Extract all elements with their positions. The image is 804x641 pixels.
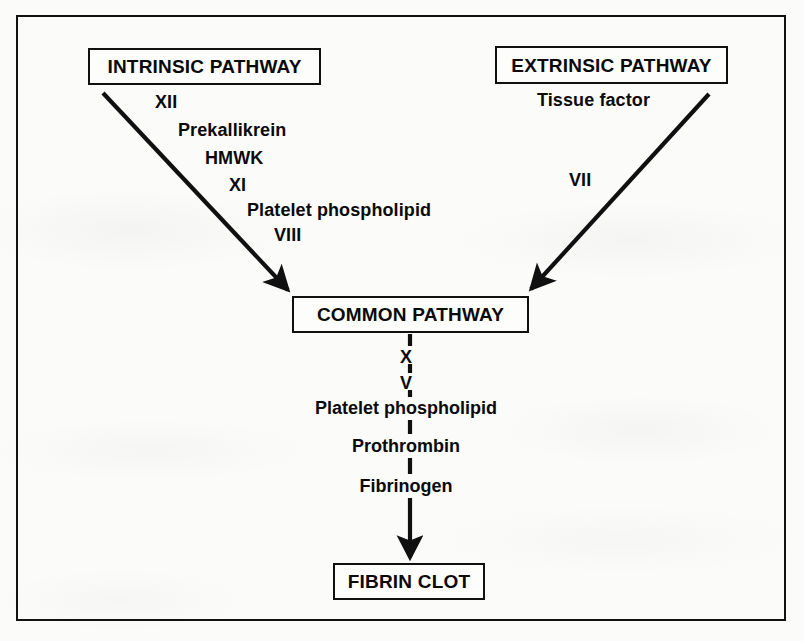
common-factor-fibrinogen-row: Fibrinogen — [0, 477, 804, 495]
node-extrinsic-pathway: EXTRINSIC PATHWAY — [495, 46, 728, 84]
node-common-pathway: COMMON PATHWAY — [292, 296, 529, 333]
intrinsic-factor-viii: VIII — [274, 226, 301, 244]
common-factor-x: X — [400, 348, 412, 366]
node-common-pathway-label: COMMON PATHWAY — [317, 305, 504, 324]
extrinsic-factor-vii: VII — [569, 171, 591, 189]
common-factor-platelet-phospholipid-row: Platelet phospholipid — [0, 399, 804, 417]
extrinsic-factor-tissue-factor: Tissue factor — [537, 91, 650, 109]
intrinsic-factor-xi: XI — [229, 176, 246, 194]
node-fibrin-clot-label: FIBRIN CLOT — [348, 572, 471, 591]
intrinsic-factor-hmwk: HMWK — [205, 149, 263, 167]
node-intrinsic-pathway-label: INTRINSIC PATHWAY — [107, 57, 301, 76]
figure-canvas: INTRINSIC PATHWAY EXTRINSIC PATHWAY COMM… — [0, 0, 804, 641]
common-factor-x-row: X — [0, 348, 804, 366]
node-fibrin-clot: FIBRIN CLOT — [333, 563, 485, 600]
node-extrinsic-pathway-label: EXTRINSIC PATHWAY — [511, 56, 711, 75]
node-intrinsic-pathway: INTRINSIC PATHWAY — [88, 48, 321, 85]
common-factor-prothrombin-row: Prothrombin — [0, 437, 804, 455]
intrinsic-factor-prekallikrein: Prekallikrein — [178, 121, 286, 139]
common-factor-v-row: V — [0, 374, 804, 392]
common-factor-fibrinogen: Fibrinogen — [360, 477, 453, 495]
common-factor-v: V — [400, 374, 412, 392]
intrinsic-factor-platelet-phospholipid: Platelet phospholipid — [247, 201, 431, 219]
common-factor-platelet-phospholipid: Platelet phospholipid — [315, 399, 497, 417]
intrinsic-factor-xii: XII — [155, 93, 177, 111]
common-factor-prothrombin: Prothrombin — [352, 437, 460, 455]
